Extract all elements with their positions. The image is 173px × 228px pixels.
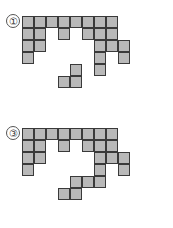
grid-cell	[106, 16, 118, 28]
grid-cell	[34, 40, 46, 52]
grid-cell	[82, 176, 94, 188]
grid-cell	[22, 40, 34, 52]
grid-cell	[106, 140, 118, 152]
grid-cell	[34, 128, 46, 140]
grid-cell	[94, 128, 106, 140]
grid-cell	[58, 128, 70, 140]
grid-cell	[94, 28, 106, 40]
grid-cell	[70, 16, 82, 28]
grid-cell	[70, 64, 82, 76]
grid-cell	[82, 140, 94, 152]
grid-cell	[118, 40, 130, 52]
grid-cell	[70, 76, 82, 88]
grid-cell	[70, 188, 82, 200]
grid-cell	[82, 16, 94, 28]
grid-cell	[94, 64, 106, 76]
grid-cell	[58, 28, 70, 40]
grid-cell	[22, 140, 34, 152]
figure-3-grid	[22, 128, 142, 212]
grid-cell	[34, 28, 46, 40]
grid-cell	[22, 16, 34, 28]
grid-cell	[22, 52, 34, 64]
grid-cell	[22, 28, 34, 40]
figure-1-label: ①	[6, 14, 20, 28]
figure-1-grid	[22, 16, 142, 100]
grid-cell	[46, 16, 58, 28]
grid-cell	[70, 128, 82, 140]
grid-cell	[94, 176, 106, 188]
puzzle-page: ① ③	[0, 0, 173, 228]
grid-cell	[106, 28, 118, 40]
grid-cell	[106, 152, 118, 164]
grid-cell	[34, 140, 46, 152]
grid-cell	[118, 52, 130, 64]
grid-cell	[94, 152, 106, 164]
grid-cell	[94, 52, 106, 64]
grid-cell	[58, 140, 70, 152]
grid-cell	[46, 128, 58, 140]
grid-cell	[22, 128, 34, 140]
figure-3-label: ③	[6, 126, 20, 140]
grid-cell	[94, 16, 106, 28]
grid-cell	[118, 164, 130, 176]
grid-cell	[82, 28, 94, 40]
grid-cell	[34, 16, 46, 28]
grid-cell	[118, 152, 130, 164]
grid-cell	[106, 40, 118, 52]
grid-cell	[58, 76, 70, 88]
grid-cell	[22, 164, 34, 176]
grid-cell	[34, 152, 46, 164]
grid-cell	[94, 164, 106, 176]
grid-cell	[82, 128, 94, 140]
grid-cell	[58, 16, 70, 28]
grid-cell	[94, 140, 106, 152]
grid-cell	[70, 176, 82, 188]
grid-cell	[106, 128, 118, 140]
grid-cell	[22, 152, 34, 164]
grid-cell	[94, 40, 106, 52]
grid-cell	[58, 188, 70, 200]
